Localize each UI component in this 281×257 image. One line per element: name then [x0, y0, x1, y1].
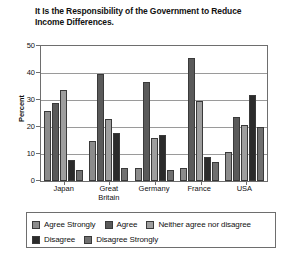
y-tick-label: 0: [11, 176, 35, 185]
bar: [257, 127, 264, 181]
legend-item[interactable]: Disagree Strongly: [84, 235, 158, 244]
legend-swatch-icon: [105, 221, 113, 229]
page-title: It Is the Responsibility of the Governme…: [35, 6, 267, 29]
bar-group: [222, 46, 267, 181]
x-tick-label: Japan: [41, 184, 86, 203]
bar: [249, 95, 256, 181]
bar: [241, 125, 248, 181]
x-tick-label: France: [177, 184, 222, 203]
y-tick-label: 40: [11, 68, 35, 77]
bar-group: [41, 46, 86, 181]
bar: [52, 103, 59, 181]
bar-groups: [41, 46, 267, 181]
bar-group: [177, 46, 222, 181]
chart-page: It Is the Responsibility of the Governme…: [0, 0, 281, 257]
bar: [76, 170, 83, 181]
y-tick-label: 10: [11, 149, 35, 158]
bar: [180, 168, 187, 181]
y-tick-label: 20: [11, 122, 35, 131]
bar-group: [86, 46, 131, 181]
bar: [135, 168, 142, 181]
bar: [233, 117, 240, 181]
bar: [44, 111, 51, 181]
legend: Agree StronglyAgreeNeither agree nor dis…: [26, 212, 276, 248]
bar: [204, 157, 211, 181]
bar: [143, 82, 150, 181]
bar: [212, 162, 219, 181]
bar: [105, 119, 112, 181]
legend-label: Agree Strongly: [44, 220, 96, 229]
bar: [113, 133, 120, 181]
bar: [225, 152, 232, 181]
bar: [188, 58, 195, 181]
bar: [97, 74, 104, 181]
legend-item[interactable]: Disagree: [32, 235, 75, 244]
x-tick-label: Germany: [131, 184, 176, 203]
bar: [89, 141, 96, 181]
bar: [167, 170, 174, 181]
legend-item[interactable]: Neither agree nor disagree: [146, 220, 251, 229]
x-axis-tick-labels: JapanGreatBritainGermanyFranceUSA: [41, 184, 267, 203]
bar: [196, 101, 203, 181]
legend-label: Agree: [117, 220, 138, 229]
legend-row: DisagreeDisagree Strongly: [32, 232, 270, 247]
legend-item[interactable]: Agree Strongly: [32, 220, 96, 229]
legend-label: Disagree Strongly: [96, 235, 158, 244]
bar: [159, 135, 166, 181]
legend-swatch-icon: [84, 236, 92, 244]
bar: [151, 138, 158, 181]
legend-swatch-icon: [32, 221, 40, 229]
x-tick-label: GreatBritain: [86, 184, 131, 203]
bar: [60, 90, 67, 181]
legend-label: Neither agree nor disagree: [158, 220, 251, 229]
legend-label: Disagree: [44, 235, 75, 244]
x-tick-label: USA: [222, 184, 267, 203]
bar: [121, 168, 128, 181]
y-tick-label: 50: [11, 41, 35, 50]
legend-swatch-icon: [32, 236, 40, 244]
legend-row: Agree StronglyAgreeNeither agree nor dis…: [32, 217, 270, 232]
legend-swatch-icon: [146, 221, 154, 229]
y-tick-label: 30: [11, 95, 35, 104]
bar-group: [131, 46, 176, 181]
legend-item[interactable]: Agree: [105, 220, 138, 229]
bar: [68, 160, 75, 181]
